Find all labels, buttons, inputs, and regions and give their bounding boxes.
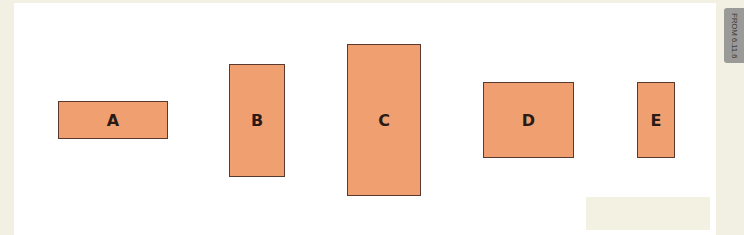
rectangle-d-label: D: [522, 111, 535, 130]
rectangle-a: A: [58, 101, 168, 139]
rectangle-d: D: [483, 82, 574, 158]
figure-reference-tab: FROM 6.11.6: [724, 8, 744, 63]
rectangle-e: E: [637, 82, 675, 158]
rectangle-b-label: B: [251, 111, 263, 130]
rectangle-a-label: A: [107, 111, 119, 130]
figure-reference-text: FROM 6.11.6: [730, 13, 739, 58]
blank-label-area: [586, 197, 710, 230]
rectangle-c: C: [347, 44, 421, 196]
rectangle-c-label: C: [378, 111, 390, 130]
rectangle-e-label: E: [651, 111, 662, 130]
rectangle-b: B: [229, 64, 285, 177]
